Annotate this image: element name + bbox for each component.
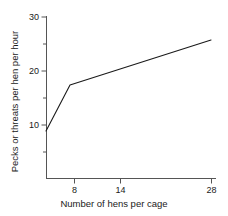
- y-tick-label-10: 10: [19, 121, 39, 130]
- data-line-series-1: [46, 40, 211, 131]
- y-tick-label-20: 20: [19, 67, 39, 76]
- y-tick-label-30: 30: [19, 13, 39, 22]
- y-axis-title: Pecks or threats per hen per hour: [9, 17, 20, 187]
- x-axis-title: Number of hens per cage: [0, 198, 228, 209]
- line-chart-plot: [0, 0, 228, 216]
- x-tick-label-28: 28: [201, 186, 222, 195]
- x-tick-label-8: 8: [64, 186, 85, 195]
- x-tick-label-14: 14: [110, 186, 131, 195]
- chart-figure: 30 20 10 8 14 28 Number of hens per cage…: [0, 0, 228, 216]
